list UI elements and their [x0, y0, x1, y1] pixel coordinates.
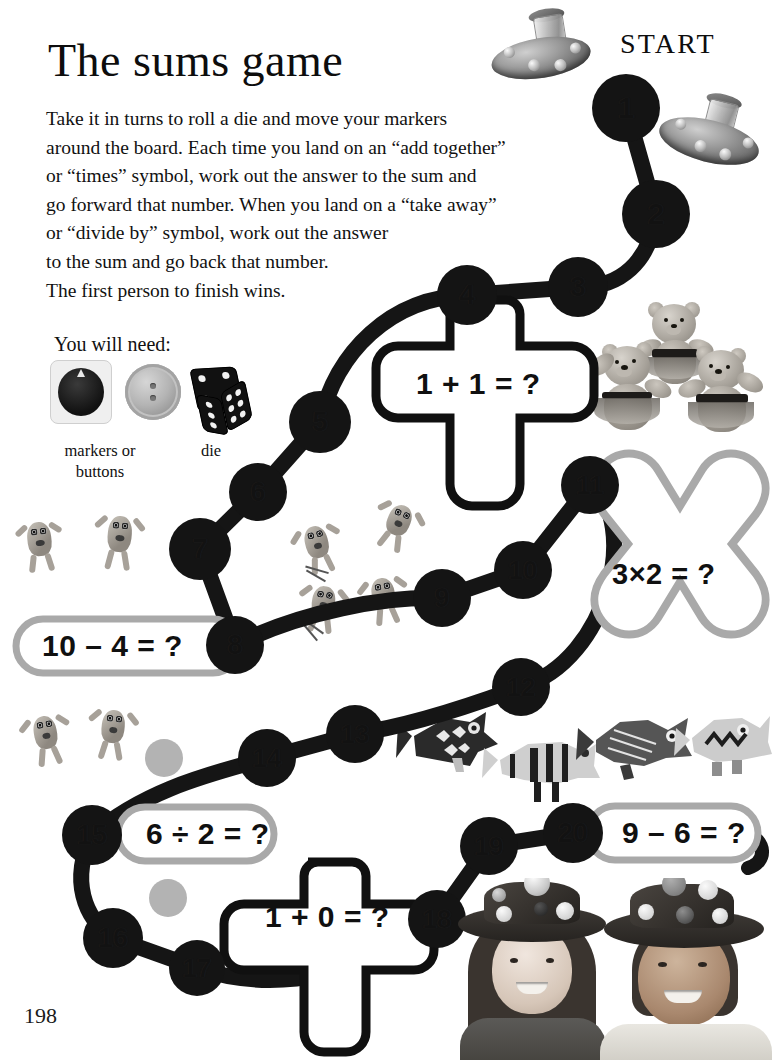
jumping-monster-4 [360, 489, 431, 566]
board-space-label-20: 20 [558, 818, 588, 849]
die-caption: die [178, 440, 244, 461]
instruction-line: or “times” symbol, work out the answer t… [46, 162, 566, 191]
instruction-line: around the board. Each time you land on … [46, 134, 566, 163]
page-number: 198 [24, 1003, 57, 1029]
paper-fish-4 [674, 716, 772, 776]
ufo-spinning-top-2 [646, 80, 772, 187]
board-space-label-15: 15 [77, 820, 107, 851]
board-space-label-14: 14 [253, 743, 282, 774]
sum-label-minus-2: 9 – 6 = ? [622, 816, 746, 850]
jumping-monster-5 [292, 575, 352, 644]
board-space-label-9: 9 [434, 583, 449, 614]
board-space-label-8: 8 [227, 630, 242, 661]
instruction-line: or “divide by” symbol, work out the answ… [46, 219, 566, 248]
instruction-line: Take it in turns to roll a die and move … [46, 105, 566, 134]
board-space-label-18: 18 [423, 904, 452, 935]
board-space-label-2: 2 [648, 197, 665, 231]
button-hole-bottom [150, 395, 156, 401]
sum-shape-plus-1 [376, 300, 594, 506]
board-space-label-19: 19 [475, 831, 504, 862]
markers-caption: markers orbuttons [46, 440, 154, 482]
board-space-label-4: 4 [459, 279, 475, 311]
sum-label-plus-2: 1 + 0 = ? [265, 900, 390, 934]
page-title: The sums game [48, 38, 343, 84]
marker-timer-prop [50, 360, 112, 424]
jumping-monster-6 [353, 566, 415, 636]
player-marker-1 [145, 739, 183, 777]
board-space-label-10: 10 [509, 555, 538, 586]
board-space-label-3: 3 [570, 271, 586, 303]
board-space-label-11: 11 [576, 470, 604, 501]
child-left [452, 878, 612, 1060]
paper-fish-2 [482, 742, 600, 802]
sum-label-plus-1: 1 + 1 = ? [416, 367, 541, 401]
track-seg-4-5 [320, 295, 467, 422]
teddy-bears-photo [586, 300, 766, 430]
sum-shape-times-1 [594, 454, 766, 635]
paper-fish-1 [396, 712, 498, 772]
track-seg-finish [746, 833, 762, 868]
board-space-label-5: 5 [312, 406, 328, 438]
track-seg-12-13 [355, 687, 521, 734]
instructions-paragraph: Take it in turns to roll a die and move … [46, 105, 566, 305]
board-space-label-1: 1 [618, 91, 635, 125]
timer-pointer [77, 369, 85, 377]
track-seg-2-3 [578, 214, 656, 287]
track-seg-5-6 [258, 422, 320, 492]
child-right [600, 884, 772, 1060]
ufo-disc [489, 30, 594, 85]
start-label: START [620, 28, 716, 60]
jumping-monster-8 [83, 697, 142, 768]
you-will-need-heading: You will need: [54, 333, 171, 356]
sum-label-minus-1: 10 – 4 = ? [42, 629, 183, 663]
die-prop [181, 355, 266, 440]
track-seg-11-12 [521, 485, 614, 687]
board-space-label-12: 12 [507, 672, 536, 703]
board-space-label-6: 6 [250, 477, 265, 508]
button-hole-top [150, 383, 156, 389]
button-prop [125, 364, 181, 420]
sum-shape-plus-2 [224, 862, 434, 1052]
ufo-spinning-top-1 [480, 2, 601, 100]
instruction-line: to the sum and go back that number. [46, 248, 566, 277]
player-marker-2 [149, 879, 187, 917]
teddy-bear-right [682, 342, 770, 434]
instruction-line: The first person to finish wins. [46, 277, 566, 306]
jumping-monster-7 [15, 702, 78, 776]
game-board-page: The sums game Take it in turns to roll a… [0, 0, 772, 1060]
jumping-monster-1 [11, 509, 70, 580]
paper-fish-3 [576, 718, 692, 780]
instruction-line: go forward that number. When you land on… [46, 191, 566, 220]
board-space-label-17: 17 [183, 953, 212, 984]
board-space-label-7: 7 [192, 533, 208, 565]
sum-label-divide-1: 6 ÷ 2 = ? [146, 817, 270, 851]
jumping-monster-3 [285, 513, 351, 588]
teddy-bear-left [586, 340, 678, 432]
sum-label-times-1: 3×2 = ? [612, 558, 715, 591]
jumping-monster-2 [89, 506, 147, 580]
board-space-label-13: 13 [341, 719, 370, 750]
track-seg-6-7 [200, 492, 258, 549]
board-space-label-16: 16 [98, 923, 128, 954]
children-in-hats-photo [452, 878, 772, 1060]
